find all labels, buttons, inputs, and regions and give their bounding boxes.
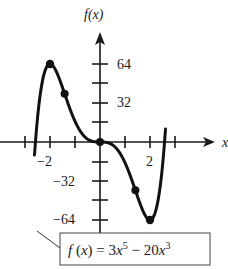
leader-line — [37, 231, 60, 248]
axes — [0, 42, 210, 260]
local-min-point — [146, 216, 154, 224]
inflection-point-right — [131, 186, 139, 194]
y-tick-label-neg32: −32 — [53, 174, 75, 189]
function-graph: f(x) x 64 32 −32 −64 −2 2 ff(x) = 3x (x)… — [0, 0, 228, 269]
x-tick-label-2: 2 — [146, 154, 153, 169]
y-axis-label: f(x) — [84, 7, 104, 23]
x-axis-label: x — [221, 135, 228, 150]
local-max-point — [46, 60, 54, 68]
x-tick-label-neg2: −2 — [37, 154, 52, 169]
y-tick-label-64: 64 — [117, 57, 131, 72]
origin-point — [96, 138, 104, 146]
formula-label: ff(x) = 3x (x) = 3x5 − 20x3 — [68, 240, 170, 259]
y-tick-label-neg64: −64 — [53, 212, 75, 227]
inflection-point-left — [61, 90, 69, 98]
y-tick-label-32: 32 — [117, 95, 131, 110]
